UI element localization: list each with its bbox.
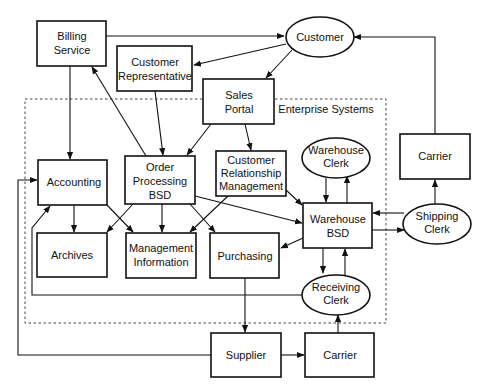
edge-carrier-customer [354, 37, 435, 134]
node-customer-representative[interactable]: Customer Representative [117, 46, 192, 91]
mgmt-info-label-1: Management [129, 242, 193, 254]
edge-salesportal-orderproc [187, 124, 211, 155]
node-sales-portal[interactable]: Sales Portal [203, 79, 274, 124]
warehouse-bsd-label-2: BSD [327, 227, 350, 239]
crm-label-1: Customer [227, 154, 275, 166]
edge-crm-warehousebsd [286, 190, 302, 205]
customer-label: Customer [296, 31, 344, 43]
node-receiving-clerk[interactable]: Receiving Clerk [302, 275, 370, 315]
edge-warehousebsd-purchasing [281, 238, 303, 248]
node-management-information[interactable]: Management Information [126, 233, 196, 278]
node-order-processing-bsd[interactable]: Order Processing BSD [125, 156, 195, 204]
sales-portal-label-1: Sales [225, 89, 253, 101]
node-purchasing[interactable]: Purchasing [210, 233, 279, 278]
order-processing-label-2: Processing [133, 175, 187, 187]
node-warehouse-clerk[interactable]: Warehouse Clerk [302, 138, 370, 178]
warehouse-clerk-label-1: Warehouse [308, 144, 364, 156]
order-processing-label-1: Order [146, 161, 174, 173]
edge-orderproc-warehousebsd [195, 196, 302, 223]
node-shipping-clerk[interactable]: Shipping Clerk [403, 204, 471, 244]
shipping-clerk-label-2: Clerk [424, 223, 450, 235]
warehouse-clerk-label-2: Clerk [323, 157, 349, 169]
supplier-label: Supplier [226, 349, 267, 361]
system-diagram: Enterprise Systems [0, 0, 484, 392]
billing-service-label-2: Service [54, 44, 91, 56]
accounting-label: Accounting [47, 176, 101, 188]
enterprise-systems-label: Enterprise Systems [278, 103, 374, 115]
node-carrier-bottom[interactable]: Carrier [305, 333, 374, 377]
node-archives[interactable]: Archives [37, 233, 107, 277]
shipping-clerk-label-1: Shipping [416, 210, 459, 222]
node-warehouse-bsd[interactable]: Warehouse BSD [303, 203, 372, 248]
node-supplier[interactable]: Supplier [211, 333, 281, 377]
order-processing-label-3: BSD [149, 189, 172, 201]
edge-custrep-orderproc [155, 91, 163, 155]
purchasing-label: Purchasing [217, 250, 272, 262]
crm-label-3: Management [219, 180, 283, 192]
edge-salesportal-crm [245, 124, 251, 150]
crm-label-2: Relationship [221, 167, 282, 179]
node-customer[interactable]: Customer [286, 17, 354, 57]
carrier-bottom-label: Carrier [323, 349, 357, 361]
sales-portal-label-2: Portal [225, 103, 254, 115]
node-customer-relationship-management[interactable]: Customer Relationship Management [216, 151, 286, 196]
archives-label: Archives [51, 249, 94, 261]
receiving-clerk-label-2: Clerk [323, 294, 349, 306]
carrier-top-label: Carrier [418, 150, 452, 162]
receiving-clerk-label-1: Receiving [312, 281, 360, 293]
edge-customer-custrep [194, 44, 286, 65]
customer-rep-label-1: Customer [131, 56, 179, 68]
billing-service-label-1: Billing [57, 30, 86, 42]
customer-rep-label-2: Representative [118, 70, 192, 82]
warehouse-bsd-label-1: Warehouse [310, 213, 366, 225]
edge-customer-salesportal [266, 50, 292, 78]
node-billing-service[interactable]: Billing Service [37, 21, 106, 66]
mgmt-info-label-2: Information [133, 256, 188, 268]
node-carrier-top[interactable]: Carrier [400, 134, 470, 179]
node-accounting[interactable]: Accounting [38, 160, 107, 205]
